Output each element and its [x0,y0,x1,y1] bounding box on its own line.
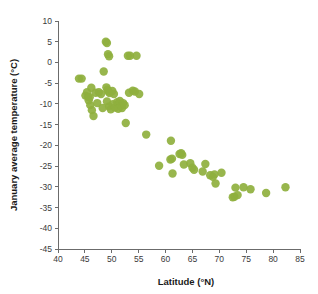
data-point [103,39,111,47]
y-tick-label: -25 [40,161,53,171]
data-point [120,101,128,109]
y-tick-label: -35 [40,203,53,213]
scatter-chart: 1050-5-10-15-20-25-30-35-40-45 404550556… [0,0,318,294]
data-point [135,90,143,98]
data-point [231,183,239,191]
y-tick-label: 0 [47,57,52,67]
temperature-axis: 1050-5-10-15-20-25-30-35-40-45 [40,16,58,254]
latitude-axis: 40455055606570758085 [53,249,305,264]
data-point [210,170,218,178]
x-tick-label: 65 [188,254,198,264]
data-point [233,191,241,199]
data-point [89,112,97,120]
y-tick-label: -20 [40,140,53,150]
data-point [178,151,186,159]
y-tick-label: -5 [44,78,52,88]
data-point [142,130,150,138]
data-point [100,67,108,75]
data-point [110,90,118,98]
x-tick-label: 80 [268,254,278,264]
data-point [262,189,270,197]
y-tick-label: -40 [40,223,53,233]
x-tick-label: 85 [295,254,305,264]
data-point [167,137,175,145]
y-tick-label: -10 [40,99,53,109]
data-point [217,169,225,177]
y-tick-label: 5 [47,37,52,47]
x-tick-label: 75 [241,254,251,264]
x-tick-label: 45 [80,254,90,264]
data-point [281,183,289,191]
data-point [77,74,85,82]
x-tick-label: 40 [53,254,63,264]
data-point [155,161,163,169]
x-tick-label: 70 [215,254,225,264]
y-tick-label: -30 [40,182,53,192]
data-point [132,52,140,60]
data-point [168,169,176,177]
x-tick-label: 55 [134,254,144,264]
data-point [211,179,219,187]
data-point [198,167,206,175]
x-tick-label: 60 [161,254,171,264]
x-axis-title: Latitude (°N) [158,276,215,287]
data-point [105,52,113,60]
data-point [246,185,254,193]
y-tick-label: 10 [43,16,53,26]
x-tick-label: 50 [107,254,117,264]
chart-canvas: 1050-5-10-15-20-25-30-35-40-45 404550556… [0,0,318,294]
y-tick-label: -15 [40,120,53,130]
data-point [122,119,130,127]
data-point [201,160,209,168]
y-axis-title: January average temperature (°C) [8,59,19,211]
data-point [190,166,198,174]
data-points [75,38,290,202]
data-point [168,154,176,162]
y-tick-label: -45 [40,244,53,254]
